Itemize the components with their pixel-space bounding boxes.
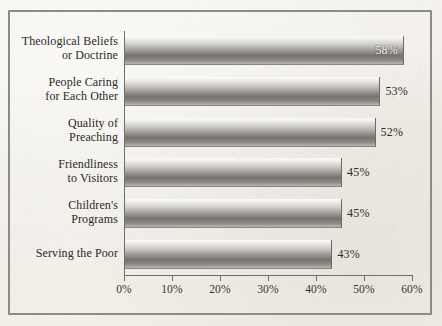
category-label: Quality of Preaching (0, 116, 118, 144)
x-axis-tick (412, 276, 413, 281)
bar-value-label: 45% (347, 165, 370, 180)
x-axis-tick (172, 276, 173, 281)
bar-value-label: 58% (375, 43, 398, 58)
bar-value-label: 53% (385, 83, 408, 98)
category-label: People Caring for Each Other (0, 75, 118, 103)
bar-value-label: 43% (337, 247, 360, 262)
bar[interactable] (125, 240, 332, 269)
plot-area: 0% 10% 20% 30% 40% 50% 60% 58% 53% 52% 4… (124, 31, 412, 276)
x-axis-tick (316, 276, 317, 281)
x-axis-tick-label: 60% (389, 283, 435, 295)
chart-figure: Theological Beliefs or Doctrine People C… (0, 0, 442, 326)
x-axis-tick-label: 30% (245, 283, 291, 295)
bar[interactable] (125, 36, 404, 65)
bar[interactable] (125, 199, 342, 228)
x-axis-tick-label: 10% (149, 283, 195, 295)
category-axis-labels: Theological Beliefs or Doctrine People C… (0, 31, 118, 276)
x-axis-tick-label: 50% (341, 283, 387, 295)
x-axis-tick-label: 20% (197, 283, 243, 295)
bar-value-label: 45% (347, 206, 370, 221)
x-axis-tick (124, 276, 125, 281)
category-label: Serving the Poor (0, 246, 118, 260)
bar[interactable] (125, 118, 376, 147)
x-axis-tick-label: 40% (293, 283, 339, 295)
x-axis-tick (220, 276, 221, 281)
category-label: Children's Programs (0, 198, 118, 226)
bar[interactable] (125, 158, 342, 187)
bar-value-label: 52% (381, 124, 404, 139)
x-axis-tick (268, 276, 269, 281)
x-axis-tick (364, 276, 365, 281)
category-label: Friendliness to Visitors (0, 157, 118, 185)
bar[interactable] (125, 77, 380, 106)
x-axis-tick-label: 0% (101, 283, 147, 295)
category-label: Theological Beliefs or Doctrine (0, 34, 118, 62)
